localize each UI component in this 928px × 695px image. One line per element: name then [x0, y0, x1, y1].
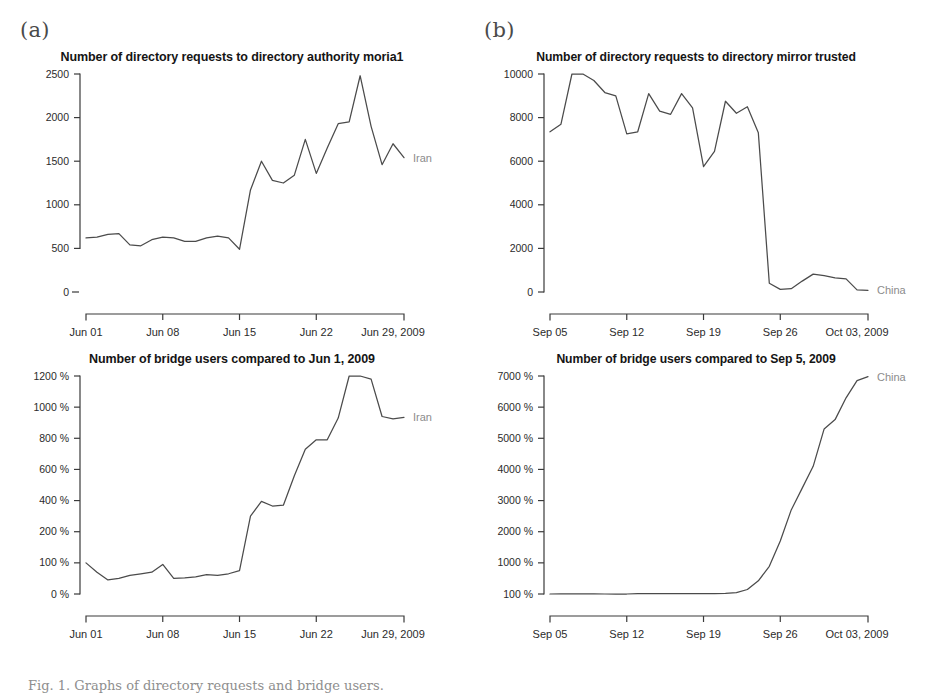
x-tick-label: Sep 05 — [533, 628, 568, 640]
y-tick-label: 1200 % — [33, 370, 69, 382]
x-tick-label: Sep 12 — [609, 628, 644, 640]
data-series-line — [86, 76, 404, 250]
y-tick-label: 0 % — [51, 588, 69, 600]
figure-caption: Fig. 1. Graphs of directory requests and… — [28, 678, 888, 695]
chart-b-top: Number of directory requests to director… — [464, 50, 928, 350]
chart-title: Number of directory requests to director… — [464, 50, 928, 64]
series-legend-label: China — [877, 284, 907, 296]
y-tick-label: 8000 — [510, 111, 534, 123]
y-tick-label: 600 % — [39, 463, 69, 475]
y-tick-label: 1000 % — [33, 401, 69, 413]
data-series-line — [550, 74, 868, 290]
y-tick-label: 100 % — [39, 556, 69, 568]
y-tick-label: 1500 — [46, 155, 70, 167]
chart-a-top: Number of directory requests to director… — [0, 50, 464, 350]
x-tick-label: Sep 26 — [763, 326, 798, 338]
y-tick-label: 3000 % — [497, 494, 533, 506]
x-tick-label: Jun 08 — [146, 628, 179, 640]
panel-label-b: (b) — [484, 18, 515, 42]
y-tick-label: 2000 % — [497, 525, 533, 537]
chart-b-bottom: Number of bridge users compared to Sep 5… — [464, 352, 928, 652]
y-tick-label: 2000 — [46, 111, 70, 123]
x-tick-label: Jun 15 — [223, 628, 256, 640]
y-tick-label: 5000 % — [497, 432, 533, 444]
series-legend-label: China — [877, 371, 907, 383]
series-legend-label: Iran — [413, 411, 432, 423]
x-tick-label: Jun 29, 2009 — [361, 628, 425, 640]
y-tick-label: 800 % — [39, 432, 69, 444]
x-tick-label: Jun 22 — [300, 628, 333, 640]
y-tick-label: 10000 — [504, 68, 533, 80]
x-tick-label: Oct 03, 2009 — [826, 326, 889, 338]
x-tick-label: Jun 01 — [69, 628, 102, 640]
chart-plot-area: 0 %100 %200 %400 %600 %800 %1000 %1200 %… — [0, 368, 464, 642]
chart-title: Number of bridge users compared to Jun 1… — [0, 352, 464, 366]
x-tick-label: Jun 15 — [223, 326, 256, 338]
x-tick-label: Sep 12 — [609, 326, 644, 338]
y-tick-label: 2000 — [510, 242, 534, 254]
y-tick-label: 0 — [63, 286, 69, 298]
x-tick-label: Jun 01 — [69, 326, 102, 338]
y-tick-label: 200 % — [39, 525, 69, 537]
chart-title: Number of bridge users compared to Sep 5… — [464, 352, 928, 366]
data-series-line — [550, 377, 868, 594]
y-tick-label: 1000 % — [497, 556, 533, 568]
chart-plot-area: 05001000150020002500Jun 01Jun 08Jun 15Ju… — [0, 66, 464, 340]
y-tick-label: 6000 % — [497, 401, 533, 413]
y-tick-label: 100 % — [503, 588, 533, 600]
y-tick-label: 7000 % — [497, 370, 533, 382]
chart-plot-area: 0200040006000800010000Sep 05Sep 12Sep 19… — [464, 66, 928, 340]
panel-a: (a) Number of directory requests to dire… — [0, 0, 464, 695]
y-tick-label: 2500 — [46, 68, 70, 80]
chart-title: Number of directory requests to director… — [0, 50, 464, 64]
series-legend-label: Iran — [413, 152, 432, 164]
y-tick-label: 0 — [527, 286, 533, 298]
x-tick-label: Jun 29, 2009 — [361, 326, 425, 338]
x-tick-label: Jun 08 — [146, 326, 179, 338]
y-tick-label: 4000 — [510, 198, 534, 210]
panel-label-a: (a) — [20, 18, 50, 42]
figure-container: (a) Number of directory requests to dire… — [0, 0, 928, 695]
x-tick-label: Sep 19 — [686, 628, 721, 640]
x-tick-label: Oct 03, 2009 — [826, 628, 889, 640]
y-tick-label: 4000 % — [497, 463, 533, 475]
data-series-line — [86, 376, 404, 580]
y-tick-label: 6000 — [510, 155, 534, 167]
chart-plot-area: 100 %1000 %2000 %3000 %4000 %5000 %6000 … — [464, 368, 928, 642]
y-tick-label: 500 — [51, 242, 69, 254]
x-tick-label: Sep 05 — [533, 326, 568, 338]
panel-b: (b) Number of directory requests to dire… — [464, 0, 928, 695]
y-tick-label: 1000 — [46, 198, 70, 210]
x-tick-label: Jun 22 — [300, 326, 333, 338]
x-tick-label: Sep 26 — [763, 628, 798, 640]
chart-a-bottom: Number of bridge users compared to Jun 1… — [0, 352, 464, 652]
x-tick-label: Sep 19 — [686, 326, 721, 338]
y-tick-label: 400 % — [39, 494, 69, 506]
